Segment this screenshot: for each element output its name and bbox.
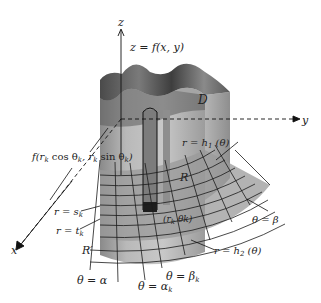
theta-beta-k-label: θ = βk [166,270,199,284]
solid-region [100,64,270,264]
surface-label: z = f(x, y) [129,41,184,54]
R-prime-label: R′ [81,244,93,257]
polar-double-integral-diagram: z y x z = f(x, y) D f(rk cos θk, rk sin … [0,0,321,303]
r-sk-label: r = sk [54,206,83,219]
x-axis-label: x [11,244,18,257]
z-axis-label: z [117,16,124,29]
r-tk-label: r = tk [56,225,84,238]
theta-alpha-label: θ = α [77,274,108,287]
r-h2-label: r = h2 (θ) [214,245,262,258]
y-axis-label: y [301,114,309,127]
column-element [143,108,170,212]
y-axis-arrow [293,116,300,122]
column-strip [163,110,170,205]
R-region-label: R [179,171,188,184]
domain-label: D [197,93,208,107]
theta-beta-label: θ = β [252,214,279,225]
